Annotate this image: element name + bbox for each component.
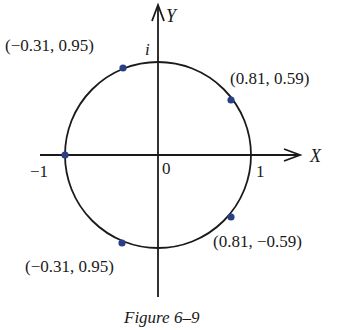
point-p2 <box>119 64 126 71</box>
origin-label: 0 <box>162 159 171 178</box>
point-label-p3: (0.81, −0.59) <box>213 232 302 251</box>
tick-label-neg-one: −1 <box>30 162 48 181</box>
y-axis-label: Y <box>166 6 178 26</box>
x-axis-label: X <box>309 146 322 166</box>
point-p3 <box>227 213 234 220</box>
point-neg-one <box>61 151 68 158</box>
point-label-p2: (−0.31, 0.95) <box>5 36 94 55</box>
point-p4 <box>118 239 125 246</box>
imaginary-unit-label: i <box>145 40 150 59</box>
tick-label-one: 1 <box>256 162 265 181</box>
unit-circle-figure: Y X i 0 1 −1 (0.81, 0.59) (−0.31, 0.95) … <box>0 0 340 330</box>
point-label-p1: (0.81, 0.59) <box>230 69 309 88</box>
point-p1 <box>227 96 234 103</box>
point-label-p4: (−0.31, 0.95) <box>25 257 114 276</box>
figure-caption: Figure 6–9 <box>123 308 200 327</box>
